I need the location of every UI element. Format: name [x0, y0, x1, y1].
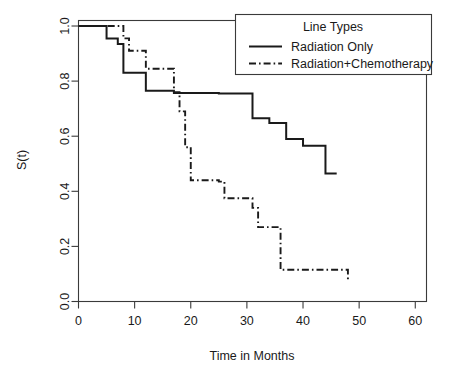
y-tick-label: 1.0 [58, 17, 72, 34]
y-tick-label: 0.8 [58, 72, 72, 89]
legend: Line Types Radiation Only Radiation+Chem… [236, 15, 434, 75]
y-axis-label: S(t) [15, 150, 29, 170]
y-tick-label: 0.2 [58, 238, 72, 255]
legend-label-radiation-only: Radiation Only [291, 40, 374, 54]
x-tick-label: 20 [184, 314, 198, 328]
x-tick-label: 50 [352, 314, 366, 328]
x-tick-label: 0 [75, 314, 82, 328]
legend-title: Line Types [303, 20, 363, 34]
kaplan-meier-chart: 0102030405060 0.00.20.40.60.81.0 Time in… [0, 0, 450, 377]
x-tick-label: 30 [240, 314, 254, 328]
y-tick-label: 0.0 [58, 293, 72, 310]
x-axis-tick-labels: 0102030405060 [75, 314, 422, 328]
x-tick-label: 10 [128, 314, 142, 328]
x-axis-ticks [79, 302, 416, 309]
x-axis-label: Time in Months [210, 349, 295, 363]
survival-plot-figure: 0102030405060 0.00.20.40.60.81.0 Time in… [0, 0, 450, 377]
y-tick-label: 0.4 [58, 183, 72, 200]
x-tick-label: 40 [296, 314, 310, 328]
legend-label-radiation-chemotherapy: Radiation+Chemotherapy [291, 57, 434, 71]
y-axis-tick-labels: 0.00.20.40.60.81.0 [58, 17, 72, 310]
y-axis-ticks [72, 26, 79, 301]
y-tick-label: 0.6 [58, 127, 72, 144]
x-tick-label: 60 [408, 314, 422, 328]
